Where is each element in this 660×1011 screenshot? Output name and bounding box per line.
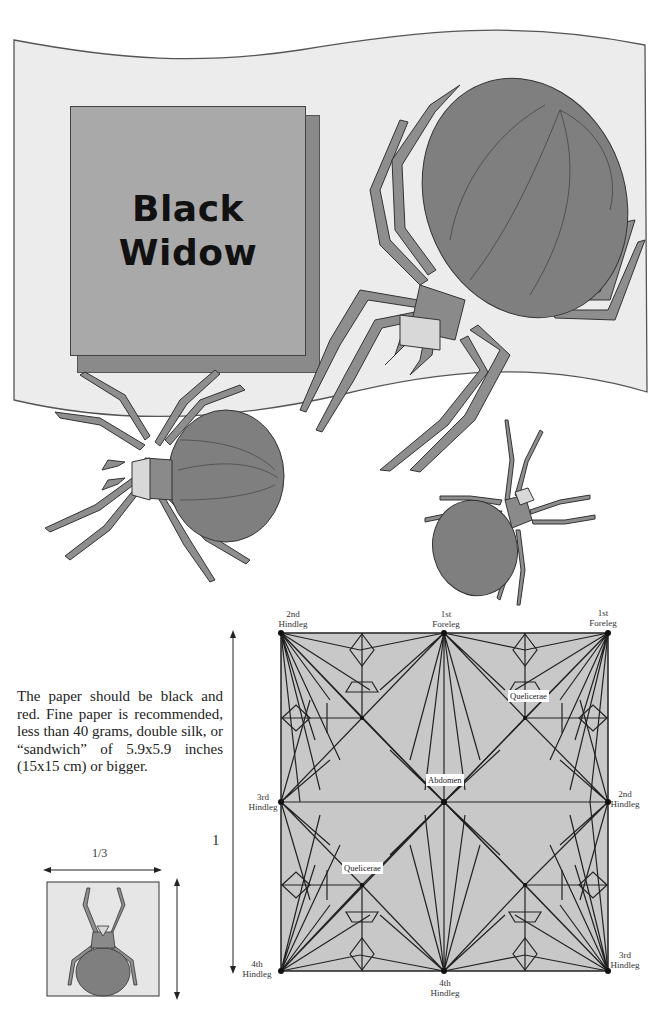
label-top-center: 1stForeleg bbox=[421, 609, 471, 629]
tag-quelicerae-bottom: Quelicerae bbox=[342, 862, 383, 874]
tag-quelicerae-top: Quelicerae bbox=[508, 690, 549, 702]
tag-abdomen: Abdomen bbox=[426, 774, 464, 786]
label-top-left: 2ndHindleg bbox=[268, 609, 318, 629]
label-bottom-center: 4thHindleg bbox=[420, 978, 470, 998]
label-bottom-left: 4thHindleg bbox=[232, 959, 282, 979]
side-length-label: 1 bbox=[212, 832, 220, 849]
label-bottom-right: 3rdHindleg bbox=[600, 950, 650, 970]
label-top-right: 1stForeleg bbox=[578, 608, 628, 628]
paper-width-label: 1/3 bbox=[92, 846, 107, 861]
label-mid-right: 2ndHindleg bbox=[600, 789, 650, 809]
label-mid-left: 3rdHindleg bbox=[238, 792, 288, 812]
